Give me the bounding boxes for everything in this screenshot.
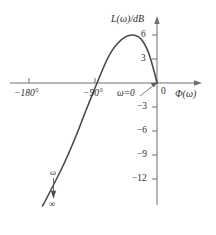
omega-direction-annotation: ω xyxy=(50,168,56,177)
nyquist-log-magnitude-phase-plot: L(ω)/dB Φ(ω) 6 3 −3 −6 −9 −12 −180° −90°… xyxy=(0,0,216,235)
omega-infinity-annotation: ∞ xyxy=(49,200,55,209)
x-axis-title: Φ(ω) xyxy=(175,89,196,99)
plot-canvas xyxy=(0,0,216,235)
y-tick-label-3: 3 xyxy=(141,54,146,64)
y-tick-label-6: 6 xyxy=(141,30,146,40)
x-axis xyxy=(10,80,202,86)
omega-zero-pointer xyxy=(140,82,158,96)
x-axis-ticks xyxy=(29,78,95,83)
omega-zero-annotation: ω=0 xyxy=(117,89,135,99)
y-tick-label-neg6: −6 xyxy=(137,126,147,136)
y-axis xyxy=(154,16,159,205)
x-tick-label-neg180: −180° xyxy=(14,89,38,99)
x-tick-label-neg90: −90° xyxy=(83,89,103,99)
y-tick-label-neg9: −9 xyxy=(137,150,147,160)
y-axis-title: L(ω)/dB xyxy=(111,14,144,24)
origin-label: 0 xyxy=(161,87,166,97)
y-tick-label-neg12: −12 xyxy=(132,174,147,184)
y-axis-ticks xyxy=(152,35,157,179)
y-tick-label-neg3: −3 xyxy=(137,102,147,112)
